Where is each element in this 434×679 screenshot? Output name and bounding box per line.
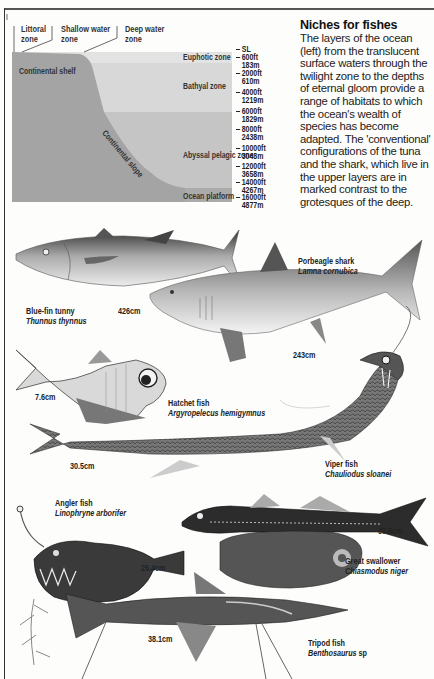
tripodfish-size: 38.1cm <box>148 634 173 644</box>
shallow-water-zone-label: Shallow water zone <box>61 24 110 44</box>
tripodfish-caption: Tripod fish Benthosaurus sp <box>308 638 367 658</box>
shark-caption: Porbeagle shark Lamna cornubica <box>298 256 358 276</box>
article-title: Niches for fishes <box>300 18 434 32</box>
depth-16000ft: 16000ft4877m <box>236 193 266 209</box>
tripodfish-illustration <box>66 572 356 679</box>
article-body: The layers of the ocean (left) from the … <box>300 32 434 208</box>
bathyal-zone-label: Bathyal zone <box>183 81 226 91</box>
depth-10000ft: 10000ft3048m <box>236 144 266 160</box>
depth-2000ft: 2000ft610m <box>236 69 262 85</box>
article-text: Niches for fishes The layers of the ocea… <box>300 18 434 208</box>
depth-8000ft: 8000ft2438m <box>236 125 263 141</box>
littoral-zone-label: Littoral zone <box>21 24 46 44</box>
viperfish-caption: Viper fish Chauliodus sloanei <box>325 459 391 479</box>
continental-shelf-label: Continental shelf <box>19 66 76 76</box>
euphotic-zone-label: Euphotic zone <box>183 52 231 62</box>
depth-6000ft: 6000ft1829m <box>236 107 263 123</box>
depth-12000ft: 12000ft3658m <box>236 162 266 178</box>
depth-600ft: 600ft183m <box>236 53 260 69</box>
great-swallower-size: 30.5cm <box>378 526 403 536</box>
depth-4000ft: 4000ft1219m <box>236 88 263 104</box>
deep-water-zone-label: Deep water zone <box>125 24 164 44</box>
viperfish-size: 30.5cm <box>70 461 95 471</box>
ocean-platform-label: Ocean platform <box>183 191 234 201</box>
tuna-size: 426cm <box>118 306 140 316</box>
ocean-zones-diagram: Littoral zone Shallow water zone Deep wa… <box>0 0 300 215</box>
